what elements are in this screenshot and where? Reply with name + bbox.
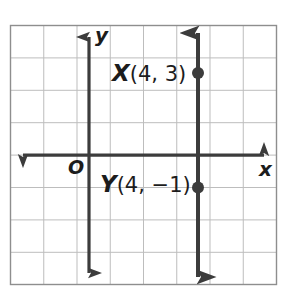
point-label-y: Y(4, −1) bbox=[100, 173, 191, 196]
origin-label: O bbox=[68, 158, 84, 177]
y-axis-label: y bbox=[95, 25, 108, 45]
point-label-x-coords: (4, 3) bbox=[130, 62, 186, 86]
point-label-y-coords: (4, −1) bbox=[117, 173, 191, 197]
point-marker-x bbox=[192, 67, 204, 79]
point-label-y-name: Y bbox=[100, 171, 117, 197]
x-axis-label: x bbox=[259, 159, 272, 179]
point-marker-y bbox=[192, 182, 204, 194]
coordinate-plane-figure: X(4, 3) Y(4, −1) O y x bbox=[0, 0, 288, 308]
point-label-x-name: X bbox=[112, 60, 130, 86]
graph-canvas bbox=[0, 0, 288, 308]
point-label-x: X(4, 3) bbox=[112, 62, 186, 85]
